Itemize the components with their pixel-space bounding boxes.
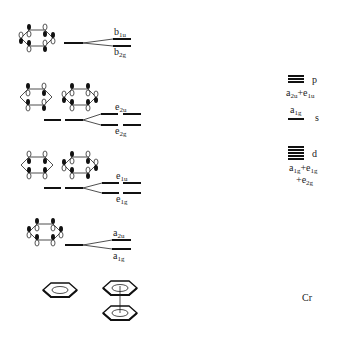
label-p: p [312, 74, 317, 85]
level-d-stack [288, 147, 304, 159]
orbital-picture-e1-b [62, 151, 98, 179]
mo-diagram: b1u b2g [0, 0, 352, 338]
row-e2-orbitals: e2u e2g [20, 83, 141, 138]
bis-benzene-sandwich [103, 281, 137, 320]
svg-text:a1g: a1g [113, 250, 125, 263]
orbital-picture-e2-a [20, 83, 52, 111]
svg-text:b2g: b2g [114, 46, 127, 59]
label-s-symmetry: a1g [290, 104, 302, 117]
label-d-symmetry-2: +e2g [296, 174, 314, 187]
svg-text:e1u: e1u [116, 170, 128, 183]
svg-text:e2g: e2g [115, 125, 127, 138]
svg-text:e2u: e2u [115, 101, 127, 114]
orbital-picture-b [19, 24, 55, 52]
row-b-orbitals: b1u b2g [19, 24, 131, 59]
svg-text:e1g: e1g [116, 193, 128, 206]
label-d: d [312, 148, 317, 159]
metal-orbitals: p a2u+e1u a1g s d a1g+e1g +e2g Cr [286, 74, 319, 303]
label-p-symmetry: a2u+e1u [286, 87, 315, 100]
svg-text:b1u: b1u [114, 26, 127, 39]
benzene-ring [43, 283, 77, 297]
label-s: s [315, 112, 319, 123]
svg-text:a2u: a2u [113, 227, 125, 240]
row-e1-orbitals: e1u e1g [21, 151, 141, 206]
label-metal-cr: Cr [302, 292, 313, 303]
level-p-stack [288, 76, 304, 82]
row-a-orbitals: a2u a1g [27, 218, 131, 263]
orbital-picture-e1-a [21, 151, 53, 179]
orbital-picture-a [27, 218, 63, 246]
orbital-picture-e2-b [62, 83, 98, 111]
